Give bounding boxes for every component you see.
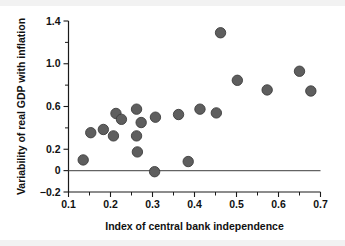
data-point <box>108 131 118 141</box>
data-point <box>149 166 159 176</box>
axis-tick-labels: −0.200.20.61.01.40.10.20.30.40.50.60.7 <box>40 15 328 210</box>
x-tick-label: 0.3 <box>145 198 160 210</box>
data-point <box>136 117 146 127</box>
data-point <box>131 131 141 141</box>
data-point <box>211 108 221 118</box>
data-point <box>306 86 316 96</box>
data-point <box>195 104 205 114</box>
data-point <box>215 28 225 38</box>
figure-page: −0.200.20.61.01.40.10.20.30.40.50.60.7 I… <box>0 0 345 246</box>
data-point <box>78 155 88 165</box>
x-tick-label: 0.7 <box>313 198 328 210</box>
data-point <box>86 127 96 137</box>
chart-svg: −0.200.20.61.01.40.10.20.30.40.50.60.7 I… <box>0 0 345 246</box>
y-tick-label: 0 <box>55 164 61 176</box>
y-tick-label: 1.4 <box>46 15 61 27</box>
y-tick-label: 0.6 <box>46 100 61 112</box>
data-point <box>262 85 272 95</box>
data-point <box>131 104 141 114</box>
x-tick-label: 0.2 <box>103 198 118 210</box>
data-point <box>116 114 126 124</box>
y-tick-label: 1.0 <box>46 57 61 69</box>
data-point <box>294 66 304 76</box>
y-tick-label: −0.2 <box>40 186 61 198</box>
data-point <box>183 156 193 166</box>
x-axis-title: Index of central bank independence <box>105 220 284 232</box>
data-point <box>132 147 142 157</box>
data-point <box>232 75 242 85</box>
y-axis-title: Variability of real GDP with inflation <box>15 18 27 195</box>
data-point <box>98 124 108 134</box>
scatter-plot: −0.200.20.61.01.40.10.20.30.40.50.60.7 I… <box>0 0 345 246</box>
y-tick-label: 0.2 <box>46 143 61 155</box>
data-point <box>173 109 183 119</box>
axes <box>69 21 321 192</box>
data-point <box>150 112 160 122</box>
x-tick-label: 0.6 <box>271 198 286 210</box>
data-points <box>78 28 316 177</box>
x-tick-label: 0.4 <box>187 198 202 210</box>
x-tick-label: 0.5 <box>229 198 244 210</box>
x-tick-label: 0.1 <box>61 198 76 210</box>
